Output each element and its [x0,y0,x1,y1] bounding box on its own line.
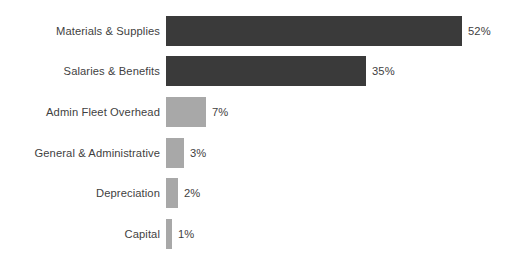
bar-segment[interactable] [166,16,462,46]
bar-value-label: 2% [184,187,200,199]
category-label: Salaries & Benefits [0,65,160,77]
bar-segment[interactable] [166,56,366,86]
bar-shell: 2% [166,178,200,208]
bar-value-label: 35% [372,65,395,77]
chart-row: Materials & Supplies 52% [0,16,511,46]
category-label: Admin Fleet Overhead [0,106,160,118]
bar-container: 1% [166,219,511,249]
bar-container: 3% [166,138,511,168]
plot-area: Materials & Supplies 52% Salaries & Bene… [0,0,511,258]
bar-container: 2% [166,178,511,208]
category-label: Materials & Supplies [0,25,160,37]
bar-value-label: 7% [212,106,228,118]
bar-shell: 7% [166,97,228,127]
chart-row: Capital 1% [0,219,511,249]
chart-row: Admin Fleet Overhead 7% [0,97,511,127]
category-label: Capital [0,228,160,240]
bar-segment[interactable] [166,138,184,168]
bar-value-label: 52% [468,25,491,37]
bar-segment[interactable] [166,178,178,208]
bar-segment[interactable] [166,219,172,249]
category-label: General & Administrative [0,147,160,159]
bar-segment[interactable] [166,97,206,127]
chart-row: Salaries & Benefits 35% [0,56,511,86]
category-label: Depreciation [0,187,160,199]
bar-chart: Materials & Supplies 52% Salaries & Bene… [0,0,511,258]
bar-shell: 1% [166,219,194,249]
bar-container: 52% [166,16,511,46]
bar-shell: 35% [166,56,395,86]
bar-container: 7% [166,97,511,127]
bar-value-label: 3% [190,147,206,159]
bar-value-label: 1% [178,228,194,240]
chart-row: General & Administrative 3% [0,138,511,168]
bar-shell: 3% [166,138,206,168]
chart-row: Depreciation 2% [0,178,511,208]
bar-shell: 52% [166,16,491,46]
bar-container: 35% [166,56,511,86]
